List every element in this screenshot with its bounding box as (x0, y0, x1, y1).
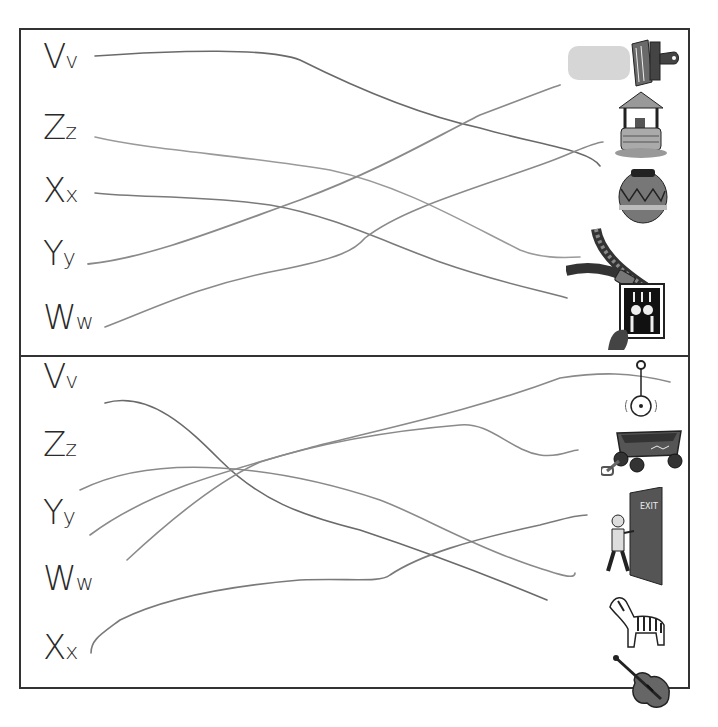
letter-lower: w (76, 309, 93, 334)
zebra-icon (606, 593, 671, 653)
letter-lower: x (65, 639, 77, 664)
x-ray-icon (606, 282, 676, 352)
letter-upper: W (43, 297, 76, 337)
letter-lower: z (65, 119, 76, 144)
violin-icon (611, 653, 676, 711)
paintbrush-picture[interactable] (566, 38, 681, 88)
letter-upper: V (43, 356, 65, 396)
letter-upper: X (43, 627, 65, 667)
letter-upper: V (43, 36, 65, 76)
violin-picture[interactable] (611, 653, 676, 711)
letter-lower: y (63, 504, 75, 529)
letter-upper: Y (43, 492, 63, 532)
letter-x[interactable]: Xx (43, 630, 77, 664)
wagon-icon (601, 425, 686, 481)
exit-door-picture[interactable]: EXIT (604, 487, 674, 587)
exit-door-icon: EXIT (604, 487, 674, 587)
letter-v[interactable]: Vv (43, 359, 77, 393)
letter-z[interactable]: Zz (43, 110, 76, 144)
letter-lower: w (76, 570, 93, 595)
letter-upper: Z (43, 107, 65, 147)
top-panel: Vv Zz Xx Yy Ww (21, 30, 688, 357)
letter-v[interactable]: Vv (43, 39, 77, 73)
exit-sign: EXIT (640, 502, 658, 511)
letter-w[interactable]: Ww (43, 300, 93, 334)
letter-lower: y (63, 245, 75, 270)
letter-upper: X (43, 170, 65, 210)
vase-picture[interactable] (617, 167, 669, 225)
letter-lower: v (65, 368, 77, 393)
letter-y[interactable]: Yy (43, 236, 75, 270)
letter-upper: W (43, 558, 76, 598)
paintbrush-icon (566, 38, 681, 88)
letter-upper: Z (43, 424, 65, 464)
letter-z[interactable]: Zz (43, 427, 76, 461)
letter-x[interactable]: Xx (43, 173, 77, 207)
letter-lower: z (65, 436, 76, 461)
yo-yo-icon (621, 360, 661, 420)
x-ray-picture[interactable] (606, 282, 676, 352)
letter-lower: v (65, 48, 77, 73)
letter-w[interactable]: Ww (43, 561, 93, 595)
wishing-well-icon (611, 90, 671, 160)
zebra-picture[interactable] (606, 593, 671, 653)
yo-yo-picture[interactable] (621, 360, 661, 420)
bottom-panel: Vv Zz Yy Ww Xx (21, 355, 688, 689)
letter-upper: Y (43, 233, 63, 273)
vase-icon (617, 167, 669, 225)
wishing-well-picture[interactable] (611, 90, 671, 160)
wagon-picture[interactable] (601, 425, 686, 481)
worksheet: Vv Zz Xx Yy Ww (19, 28, 690, 689)
letter-lower: x (65, 182, 77, 207)
letter-y[interactable]: Yy (43, 495, 75, 529)
